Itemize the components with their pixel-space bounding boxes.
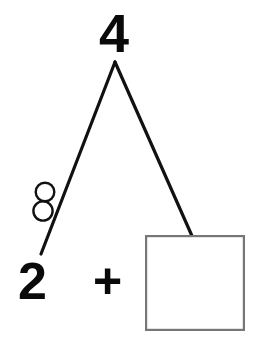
answer-box[interactable] <box>146 236 244 330</box>
number-bond-worksheet: 4 2 + <box>0 0 259 356</box>
known-addend-label: 2 <box>18 255 46 307</box>
whole-number-label: 4 <box>99 6 128 60</box>
plus-operator-icon: + <box>93 256 122 306</box>
